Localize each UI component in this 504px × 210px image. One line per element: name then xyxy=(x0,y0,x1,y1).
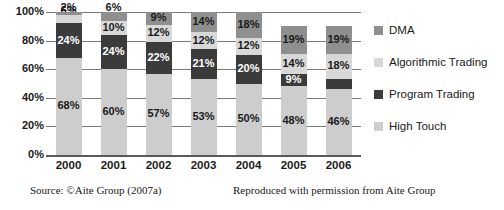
y-axis-tick-label: 60% xyxy=(0,63,44,74)
bar-segment-label: 60% xyxy=(102,106,124,117)
bar-segment-2001-high-touch: 60% xyxy=(101,69,127,155)
bar-segment-2004-high-touch: 50% xyxy=(236,84,262,156)
bar-segment-label: 22% xyxy=(147,52,169,63)
bar-segment-label: 50% xyxy=(237,113,259,124)
bar-segment-2001-dma: 6% xyxy=(101,12,127,21)
x-axis-tick-label: 2004 xyxy=(229,158,269,172)
bar-segment-2001-algorithmic-trading: 10% xyxy=(101,21,127,35)
bar-segment-2000-program-trading: 24% xyxy=(56,23,82,57)
bar-segment-2004-dma: 18% xyxy=(236,12,262,38)
bar-segment-2002-program-trading: 22% xyxy=(146,42,172,73)
legend-item-program-trading: Program Trading xyxy=(374,78,504,110)
bar-segment-2006-high-touch: 46% xyxy=(326,89,352,155)
x-axis-tick-label: 2006 xyxy=(319,158,359,172)
bar-segment-label: 10% xyxy=(102,22,124,33)
y-axis: 0%20%40%60%80%100% xyxy=(0,12,44,155)
bar-segment-label: 9% xyxy=(286,74,302,85)
x-axis-tick-label: 2003 xyxy=(184,158,224,172)
bar-segment-label: 20% xyxy=(237,63,259,74)
legend-swatch-icon xyxy=(374,26,383,35)
bar-segment-2002-dma: 9% xyxy=(146,12,172,25)
bar-segment-label: 18% xyxy=(327,60,349,71)
bar-segment-label: 2% xyxy=(61,2,77,13)
y-axis-tick-label: 20% xyxy=(0,120,44,131)
bar-2001: 60%24%10%6% xyxy=(101,12,127,155)
y-axis-tick-label: 80% xyxy=(0,35,44,46)
permission-note: Reproduced with permission from Aite Gro… xyxy=(233,184,436,196)
bar-group-container: 68%24%6%2%60%24%10%6%57%22%12%9%53%21%12… xyxy=(46,12,361,155)
bar-segment-label: 48% xyxy=(282,115,304,126)
bar-segment-label: 21% xyxy=(192,58,214,69)
bar-segment-2003-algorithmic-trading: 12% xyxy=(191,32,217,49)
legend-swatch-icon xyxy=(374,58,383,67)
bar-segment-label: 12% xyxy=(147,27,169,38)
bar-segment-label: 18% xyxy=(237,19,259,30)
legend-item-label: Algorithmic Trading xyxy=(389,56,487,68)
stacked-bar-chart-figure: 0%20%40%60%80%100% 68%24%6%2%60%24%10%6%… xyxy=(0,0,504,210)
bar-segment-label: 6% xyxy=(106,2,122,13)
bar-segment-2005-program-trading: 9% xyxy=(281,74,307,87)
x-axis-tick-label: 2000 xyxy=(49,158,89,172)
bar-segment-label: 19% xyxy=(327,34,349,45)
bar-segment-2000-algorithmic-trading: 6% xyxy=(56,15,82,24)
bar-segment-2006-algorithmic-trading: 18% xyxy=(326,54,352,80)
bar-segment-2005-algorithmic-trading: 14% xyxy=(281,54,307,74)
bar-segment-2004-algorithmic-trading: 12% xyxy=(236,38,262,55)
bar-segment-2002-algorithmic-trading: 12% xyxy=(146,25,172,42)
legend-item-label: Program Trading xyxy=(389,88,475,100)
bar-segment-2005-dma: 19% xyxy=(281,26,307,53)
bar-segment-2006-dma: 19% xyxy=(326,26,352,53)
bar-segment-label: 12% xyxy=(192,35,214,46)
bar-segment-2005-high-touch: 48% xyxy=(281,86,307,155)
bar-2005: 48%9%14%19% xyxy=(281,26,307,155)
bar-segment-label: 68% xyxy=(57,100,79,111)
x-axis-tick-label: 2001 xyxy=(94,158,134,172)
y-axis-tick-label: 0% xyxy=(0,149,44,160)
bar-segment-label: 9% xyxy=(151,12,167,23)
source-note: Source: ©Aite Group (2007a) xyxy=(30,184,161,196)
bar-segment-2003-high-touch: 53% xyxy=(191,79,217,155)
legend-item-high-touch: High Touch xyxy=(374,110,504,142)
bar-segment-label: 57% xyxy=(147,108,169,119)
bar-segment-label: 14% xyxy=(282,58,304,69)
legend-item-label: High Touch xyxy=(389,120,446,132)
legend-swatch-icon xyxy=(374,90,383,99)
y-axis-tick-label: 100% xyxy=(0,6,44,17)
bar-segment-2003-program-trading: 21% xyxy=(191,49,217,79)
bar-segment-2004-program-trading: 20% xyxy=(236,55,262,84)
bar-segment-label: 53% xyxy=(192,111,214,122)
y-axis-tick-label: 40% xyxy=(0,92,44,103)
bar-segment-label: 14% xyxy=(192,16,214,27)
bar-segment-2002-high-touch: 57% xyxy=(146,74,172,156)
legend-item-label: DMA xyxy=(389,24,415,36)
x-axis-tick-label: 2005 xyxy=(274,158,314,172)
chart-legend: DMAAlgorithmic TradingProgram TradingHig… xyxy=(374,14,504,142)
bar-segment-label: 24% xyxy=(102,46,124,57)
bar-2004: 50%20%12%18% xyxy=(236,12,262,155)
bar-2002: 57%22%12%9% xyxy=(146,12,172,155)
bar-segment-label: 24% xyxy=(57,35,79,46)
x-axis-tick-label: 2002 xyxy=(139,158,179,172)
legend-item-algorithmic-trading: Algorithmic Trading xyxy=(374,46,504,78)
bar-segment-label: 46% xyxy=(327,116,349,127)
legend-item-dma: DMA xyxy=(374,14,504,46)
x-axis: 2000200120022003200420052006 xyxy=(46,158,361,176)
bar-segment-2000-high-touch: 68% xyxy=(56,58,82,155)
bar-segment-2006-program-trading: 7% xyxy=(326,79,352,89)
legend-swatch-icon xyxy=(374,122,383,131)
bar-2003: 53%21%12%14% xyxy=(191,12,217,155)
bar-segment-2001-program-trading: 24% xyxy=(101,35,127,69)
bar-segment-label: 19% xyxy=(282,34,304,45)
bar-segment-2003-dma: 14% xyxy=(191,12,217,32)
bar-2000: 68%24%6%2% xyxy=(56,12,82,155)
bar-segment-label: 12% xyxy=(237,40,259,51)
x-axis-baseline xyxy=(46,155,361,157)
bar-segment-2000-dma: 2% xyxy=(56,12,82,15)
bar-2006: 46%7%18%19% xyxy=(326,26,352,155)
